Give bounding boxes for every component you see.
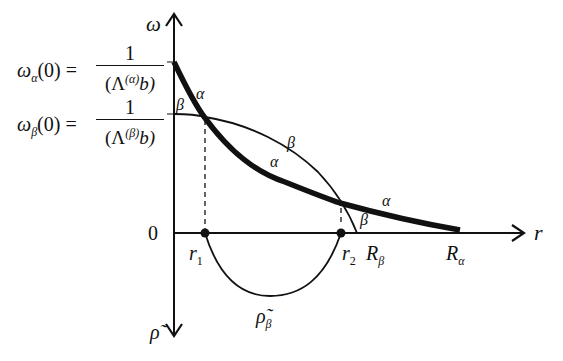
beta-label-1: β [176,97,184,113]
alpha-label-1: α [196,86,204,102]
omega-symbol: ω [17,59,31,81]
alpha-label-2: α [270,154,278,170]
r1-point [201,229,210,238]
rho-axis-label: ρ̃ [150,322,160,342]
beta-label-3: β [360,212,368,228]
r2-label: r2 [342,243,356,267]
fraction-bar [96,65,164,66]
alpha-curve [174,62,460,230]
omega-alpha-lhs: ωα(0) = [17,60,77,84]
R-alpha-label: Rα [446,243,465,267]
denominator: (Λ(α)b) [96,68,164,95]
alpha-label-3: α [382,193,390,209]
beta-label-2: β [287,135,295,151]
R-beta-label: Rβ [366,243,384,267]
rho-beta-label: ρ̃β [256,306,272,330]
r2-point [337,229,346,238]
omega-alpha-fraction: 1 (Λ(α)b) [96,42,164,96]
omega-axis-label: ω [146,14,161,35]
omega-beta-lhs: ωβ(0) = [17,114,77,138]
rho-beta-curve [205,233,341,296]
numerator: 1 [96,96,164,118]
omega-beta-fraction: 1 (Λ(β)b) [96,96,164,150]
origin-label: 0 [148,223,158,243]
denominator: (Λ(β)b) [96,122,164,149]
numerator: 1 [96,42,164,64]
r-axis-label: r [534,222,543,244]
diagram-canvas [0,0,563,361]
omega-symbol: ω [17,113,31,135]
arg-zero-equals: (0) = [37,113,77,135]
fraction-bar [96,119,164,120]
arg-zero-equals: (0) = [37,59,77,81]
r1-label: r1 [189,243,203,267]
